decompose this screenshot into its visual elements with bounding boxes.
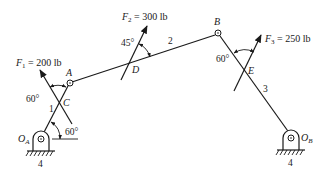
ground-pivot-oa	[26, 131, 55, 156]
f3-label: F3 = 250 lb	[264, 33, 311, 46]
point-b-label: B	[214, 16, 220, 27]
point-e-label: E	[247, 65, 254, 76]
f1-label: F1 = 200 lb	[15, 57, 62, 70]
ground-right-label: 4	[288, 158, 293, 168]
link-1-label: 1	[49, 104, 54, 114]
link-3	[220, 36, 290, 134]
ground-left-label: 4	[38, 159, 43, 169]
pivot-ob-label: OB	[301, 132, 313, 145]
force-f3	[234, 35, 261, 91]
link-2	[72, 35, 215, 82]
link-2-label: 2	[168, 36, 173, 46]
point-a-label: A	[65, 67, 73, 78]
crank-angle-label: 60°	[65, 127, 79, 137]
point-d-label: D	[131, 64, 140, 75]
point-c-label: C	[63, 97, 70, 108]
f3-angle-label: 60°	[216, 54, 230, 64]
pin-b	[215, 30, 221, 36]
f1-angle-label: 60°	[26, 94, 40, 104]
pivot-oa-label: OA	[18, 133, 30, 146]
f2-label: F2 = 300 lb	[121, 11, 168, 24]
pin-a	[67, 80, 73, 86]
link-3-label: 3	[263, 84, 268, 94]
f2-angle-label: 45°	[121, 38, 135, 48]
linkage-diagram: F1 = 200 lb F2 = 300 lb F3 = 250 lb 60° …	[0, 0, 326, 178]
